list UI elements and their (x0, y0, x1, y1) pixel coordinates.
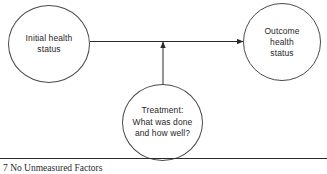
node-initial-health-status[interactable]: Initial health status (8, 5, 90, 83)
figure-caption: 7 No Unmeasured Factors (3, 163, 102, 174)
node-treatment-label: Treatment: What was done and how well? (133, 105, 193, 140)
node-outcome-health-status[interactable]: Outcome health status (243, 3, 321, 81)
node-outcome-health-status-label: Outcome health status (264, 26, 299, 59)
node-initial-health-status-label: Initial health status (26, 33, 73, 55)
node-treatment[interactable]: Treatment: What was done and how well? (122, 84, 203, 161)
